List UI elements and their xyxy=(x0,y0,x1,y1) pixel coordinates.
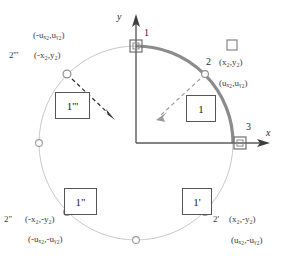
node-3-number: 3 xyxy=(246,122,251,132)
y-axis-label: y xyxy=(117,12,121,22)
node-2pp-number: 2" xyxy=(4,215,12,224)
element-box-1[interactable]: 1 xyxy=(186,95,216,122)
node-2pp-coordinate-label: (-x₂,-y₂) xyxy=(25,215,55,224)
node-1-number: 1 xyxy=(144,28,149,38)
marker-point-2 xyxy=(202,71,209,78)
element-box-1-double-prime[interactable]: 1" xyxy=(64,188,97,215)
node-2ppp-coordinate-label: (-x₂,y₂) xyxy=(34,51,61,60)
element-box-1-prime[interactable]: 1' xyxy=(182,188,212,215)
node-2-number: 2 xyxy=(206,57,211,67)
node-2p-number: 2' xyxy=(213,215,219,224)
marker-point-left xyxy=(36,140,43,147)
node-2ppp-number: 2''' xyxy=(9,51,18,60)
x-axis-label: x xyxy=(266,128,270,138)
node-2ppp-displacement-label: (-uₓ₂,uᵧ₂) xyxy=(33,31,65,40)
node-2p-displacement-label: (uₓ₂,-uᵧ₂) xyxy=(231,236,263,245)
figure-canvas: y x 1 2 3 (x₂,y₂) (uₓ₂,uᵧ₂) (-uₓ₂,uᵧ₂) 2… xyxy=(0,0,290,264)
node-2pp-displacement-label: (-uₓ₂,-uᵧ₂) xyxy=(28,235,63,244)
node-2p-coordinate-label: (x₂,-y₂) xyxy=(229,215,256,224)
node-2-square-legend-marker xyxy=(227,40,237,50)
marker-point-bottom xyxy=(133,237,140,244)
node-2-displacement-label: (uₓ₂,uᵧ₂) xyxy=(219,79,248,88)
arrow-1-head xyxy=(156,112,167,122)
marker-point-2-triple-prime xyxy=(63,70,71,78)
element-box-1-triple-prime[interactable]: 1''' xyxy=(55,92,90,119)
node-2-coordinate-label: (x₂,y₂) xyxy=(219,58,243,67)
